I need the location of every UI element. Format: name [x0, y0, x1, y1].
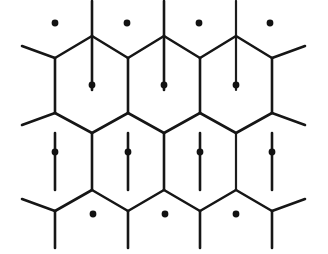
cell-centre-dot [269, 149, 276, 156]
cell-centre-dot [197, 149, 204, 156]
cell-centre-dot [233, 211, 240, 218]
cell-centre-dot [52, 149, 59, 156]
cell-centre-dot [161, 82, 168, 89]
cell-centre-dot [162, 211, 169, 218]
cell-centre-dot [89, 82, 96, 89]
honeycomb-lattice-svg [0, 0, 328, 254]
cell-centre-dot [124, 20, 131, 27]
cell-centre-dot [196, 20, 203, 27]
cell-centre-dot [233, 82, 240, 89]
cell-centre-dot [125, 149, 132, 156]
diagram-canvas [0, 0, 328, 254]
cell-centre-dot [267, 20, 274, 27]
cell-centre-dot [52, 20, 59, 27]
cell-centre-dot [90, 211, 97, 218]
